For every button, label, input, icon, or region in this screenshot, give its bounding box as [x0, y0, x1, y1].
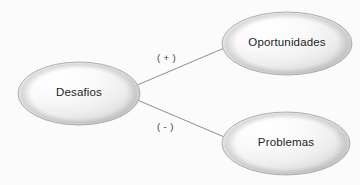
edge-desafios-oportunidades	[135, 46, 229, 86]
edge-group	[135, 46, 229, 139]
concept-map-diagram: Desafios Oportunidades Problemas ( + ) (…	[0, 0, 360, 185]
edge-label-negative: ( - )	[157, 121, 174, 132]
edge-label-positive: ( + )	[157, 52, 176, 63]
node-label-desafios: Desafios	[18, 86, 140, 98]
edge-desafios-problemas	[135, 99, 229, 139]
node-label-oportunidades: Oportunidades	[222, 36, 352, 48]
node-label-problemas: Problemas	[222, 136, 350, 148]
